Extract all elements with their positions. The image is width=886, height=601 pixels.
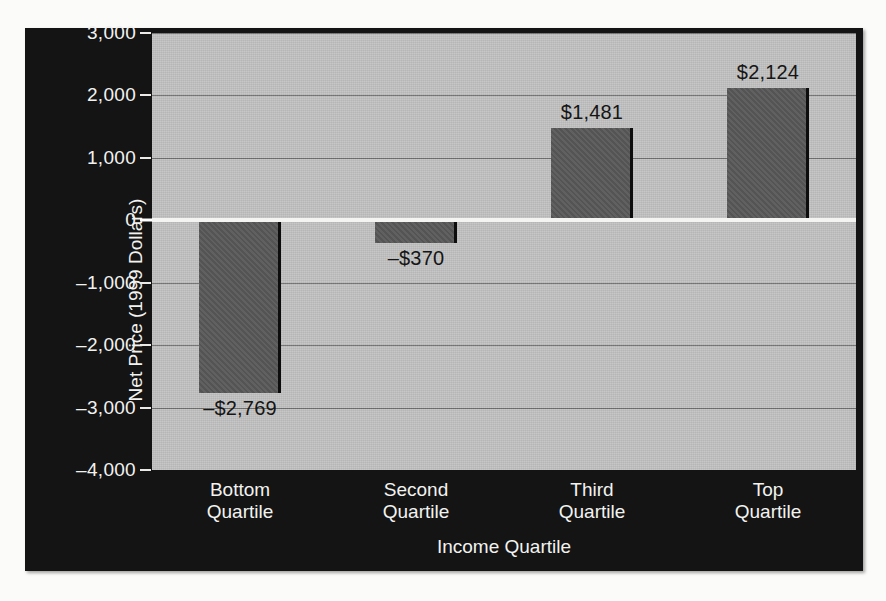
y-tick-mark: [140, 157, 151, 159]
bar-value-label: $2,124: [737, 61, 799, 84]
y-tick-mark: [140, 282, 151, 284]
y-tick-mark: [140, 32, 151, 34]
x-category-label: Third Quartile: [559, 479, 626, 524]
bar[interactable]: [375, 220, 457, 243]
bar-value-label: $1,481: [561, 101, 623, 124]
bar[interactable]: [199, 220, 281, 393]
x-category-label: Bottom Quartile: [207, 479, 274, 524]
y-tick-label: –4,000: [76, 459, 136, 481]
bar[interactable]: [551, 128, 633, 220]
x-category-label: Second Quartile: [383, 479, 450, 524]
y-tick-mark: [140, 407, 151, 409]
y-tick-label: 0: [125, 209, 136, 231]
zero-baseline: [152, 218, 856, 222]
y-tick-label: –3,000: [76, 397, 136, 419]
figure-canvas: Net Price (1999 Dollars) 3,0002,0001,000…: [0, 0, 886, 601]
x-category-label: Top Quartile: [735, 479, 802, 524]
y-tick-label: 1,000: [87, 147, 136, 169]
chart-panel: Net Price (1999 Dollars) 3,0002,0001,000…: [25, 28, 863, 571]
x-axis-title: Income Quartile: [437, 536, 571, 558]
bar[interactable]: [727, 88, 809, 221]
y-tick-label: –2,000: [76, 334, 136, 356]
y-tick-mark: [140, 344, 151, 346]
y-tick-label: 3,000: [87, 22, 136, 44]
y-tick-mark: [140, 94, 151, 96]
gridline: [152, 33, 856, 34]
y-tick-label: 2,000: [87, 84, 136, 106]
bar-value-label: –$370: [388, 247, 445, 270]
y-tick-mark: [140, 469, 151, 471]
bar-value-label: –$2,769: [203, 397, 277, 420]
y-tick-label: –1,000: [76, 272, 136, 294]
